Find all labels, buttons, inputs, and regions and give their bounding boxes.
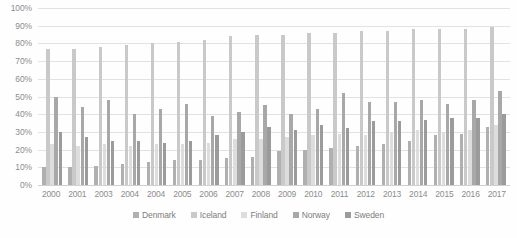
bar-iceland	[307, 33, 310, 185]
legend-label: Norway	[302, 210, 330, 220]
bar-denmark	[94, 166, 97, 185]
bar-iceland	[203, 40, 206, 185]
x-axis-tick-label: 2005	[169, 186, 195, 202]
bar-denmark	[408, 141, 411, 185]
bar-norway	[472, 100, 475, 185]
bar-group	[143, 8, 169, 185]
bar-iceland	[386, 31, 389, 185]
bar-finland	[494, 125, 497, 185]
bar-iceland	[177, 42, 180, 185]
y-axis-tick-label: 100%	[11, 3, 32, 13]
bar-norway	[159, 109, 162, 185]
x-axis: 2000200120032004200420052006200720082009…	[38, 186, 510, 202]
bar-iceland	[360, 31, 363, 185]
legend-item-denmark[interactable]: Denmark	[133, 210, 176, 220]
bar-denmark	[486, 127, 489, 185]
bar-finland	[442, 132, 445, 185]
legend-item-iceland[interactable]: Iceland	[191, 210, 227, 220]
bar-norway	[263, 105, 266, 185]
bar-norway	[133, 114, 136, 185]
bar-finland	[233, 139, 236, 185]
bar-iceland	[151, 43, 154, 185]
bar-group	[65, 8, 91, 185]
legend-item-finland[interactable]: Finland	[241, 210, 277, 220]
bar-sweden	[450, 118, 453, 185]
bar-finland	[181, 144, 184, 185]
bar-sweden	[267, 127, 270, 185]
bar-iceland	[464, 29, 467, 185]
bar-iceland	[490, 27, 493, 185]
bar-sweden	[59, 132, 62, 185]
x-axis-tick-label: 2009	[274, 186, 300, 202]
y-axis-tick-label: 20%	[15, 145, 32, 155]
bar-denmark	[277, 151, 280, 185]
bar-sweden	[398, 121, 401, 185]
y-axis-tick-label: 60%	[15, 74, 32, 84]
bar-finland	[207, 143, 210, 185]
bar-norway	[81, 107, 84, 185]
x-axis-tick-label: 2008	[248, 186, 274, 202]
bar-iceland	[412, 29, 415, 185]
x-axis-tick-label: 2011	[326, 186, 352, 202]
bar-group	[170, 8, 196, 185]
bar-norway	[498, 91, 501, 185]
bar-finland	[468, 130, 471, 185]
bar-norway	[54, 97, 57, 186]
legend-label: Finland	[250, 210, 277, 220]
x-axis-tick-label: 2015	[431, 186, 457, 202]
bar-norway	[342, 93, 345, 185]
bar-norway	[394, 102, 397, 185]
legend-item-norway[interactable]: Norway	[293, 210, 330, 220]
bar-norway	[211, 116, 214, 185]
legend-swatch-icon	[191, 212, 197, 218]
bar-finland	[416, 130, 419, 185]
legend-swatch-icon	[133, 212, 139, 218]
legend-item-sweden[interactable]: Sweden	[345, 210, 384, 220]
y-axis-tick-label: 10%	[15, 162, 32, 172]
bar-norway	[420, 100, 423, 185]
x-axis-tick-label: 2001	[64, 186, 90, 202]
bar-sweden	[372, 121, 375, 185]
x-axis-tick-label: 2014	[405, 186, 431, 202]
x-axis-tick-label: 2004	[143, 186, 169, 202]
bar-finland	[259, 139, 262, 185]
bar-sweden	[163, 143, 166, 185]
bar-denmark	[225, 158, 228, 185]
bar-iceland	[281, 35, 284, 185]
bar-sweden	[85, 137, 88, 185]
x-axis-tick-label: 2003	[90, 186, 116, 202]
bar-groups	[38, 8, 510, 185]
bar-denmark	[303, 150, 306, 185]
bar-group	[248, 8, 274, 185]
bar-norway	[107, 100, 110, 185]
bar-iceland	[72, 49, 75, 185]
bar-denmark	[460, 134, 463, 185]
x-axis-tick-label: 2016	[458, 186, 484, 202]
bar-norway	[185, 104, 188, 185]
bar-finland	[390, 132, 393, 185]
y-axis-tick-label: 0%	[20, 180, 32, 190]
x-axis-tick-label: 2000	[38, 186, 64, 202]
legend-swatch-icon	[293, 212, 299, 218]
bar-group	[378, 8, 404, 185]
bar-iceland	[438, 29, 441, 185]
bar-sweden	[189, 141, 192, 185]
bar-group	[300, 8, 326, 185]
bar-denmark	[121, 164, 124, 185]
bar-group	[405, 8, 431, 185]
bar-denmark	[251, 157, 254, 185]
bar-norway	[446, 104, 449, 185]
bar-finland	[103, 144, 106, 185]
x-axis-tick-label: 2012	[353, 186, 379, 202]
bar-group	[431, 8, 457, 185]
bar-finland	[76, 146, 79, 185]
bar-finland	[50, 144, 53, 185]
bar-finland	[364, 135, 367, 185]
bar-norway	[289, 114, 292, 185]
bar-sweden	[241, 132, 244, 185]
bar-denmark	[356, 146, 359, 185]
bar-group	[91, 8, 117, 185]
bar-denmark	[173, 160, 176, 185]
bar-group	[483, 8, 509, 185]
bar-group	[39, 8, 65, 185]
